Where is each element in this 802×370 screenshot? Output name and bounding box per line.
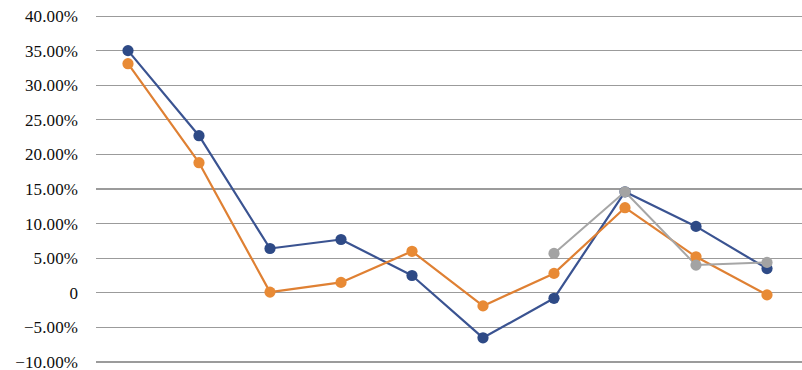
series-markers	[122, 45, 772, 343]
y-axis-tick-label: 5.00%	[34, 250, 78, 267]
data-point-marker	[335, 277, 346, 288]
data-point-marker	[690, 221, 701, 232]
plot-area	[96, 0, 802, 370]
y-axis-tick-label: 30.00%	[25, 77, 78, 94]
gridlines	[96, 17, 802, 363]
y-axis-tick-label: 0	[69, 284, 78, 301]
data-point-marker	[193, 130, 204, 141]
data-point-marker	[264, 287, 275, 298]
data-point-marker	[548, 293, 559, 304]
y-axis-tick-label: −10.00%	[15, 354, 78, 370]
data-point-marker	[548, 248, 559, 259]
data-point-marker	[406, 270, 417, 281]
data-point-marker	[619, 202, 630, 213]
data-point-marker	[264, 243, 275, 254]
y-axis-tick-label: 25.00%	[25, 111, 78, 128]
plot-svg	[96, 0, 802, 370]
data-point-marker	[761, 289, 772, 300]
y-axis: 40.00%35.00%30.00%25.00%20.00%15.00%10.0…	[0, 0, 86, 370]
data-point-marker	[619, 186, 630, 197]
y-axis-tick-label: 15.00%	[25, 181, 78, 198]
data-point-marker	[761, 257, 772, 268]
series-line	[128, 51, 767, 338]
y-axis-tick-label: 35.00%	[25, 42, 78, 59]
data-point-marker	[122, 45, 133, 56]
series-line	[554, 192, 767, 265]
data-point-marker	[335, 234, 346, 245]
data-point-marker	[193, 157, 204, 168]
series-lines	[128, 51, 767, 338]
data-point-marker	[477, 332, 488, 343]
y-axis-tick-label: −5.00%	[24, 319, 78, 336]
data-point-marker	[690, 260, 701, 271]
data-point-marker	[548, 268, 559, 279]
data-point-marker	[122, 58, 133, 69]
y-axis-tick-label: 20.00%	[25, 146, 78, 163]
line-chart: 40.00%35.00%30.00%25.00%20.00%15.00%10.0…	[0, 0, 802, 370]
data-point-marker	[406, 246, 417, 257]
series-line	[128, 64, 767, 306]
y-axis-tick-label: 40.00%	[25, 8, 78, 25]
y-axis-tick-label: 10.00%	[25, 215, 78, 232]
data-point-marker	[477, 300, 488, 311]
